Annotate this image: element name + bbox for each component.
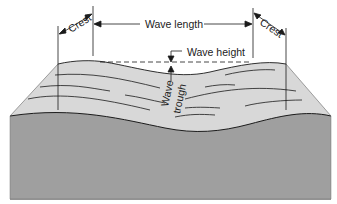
wave-height-label: Wave height <box>187 46 245 58</box>
wave-length-arrowhead-right <box>245 21 252 27</box>
wave-height-arrowhead-bottom <box>168 66 174 72</box>
left-crest-arrowhead-a <box>59 28 66 34</box>
wave-length-arrowhead-left <box>94 21 101 27</box>
right-crest-arrowhead-a <box>254 13 261 19</box>
wave-length-label: Wave length <box>145 18 203 30</box>
wave-height-arrowhead-top <box>168 56 174 62</box>
crest-right-label: Crest <box>258 16 286 40</box>
wave-diagram: Crest Crest Wave length Wave height Wave… <box>0 0 337 204</box>
wave-diagram-final: Crest Crest Wave length Wave height Wave… <box>0 0 337 204</box>
